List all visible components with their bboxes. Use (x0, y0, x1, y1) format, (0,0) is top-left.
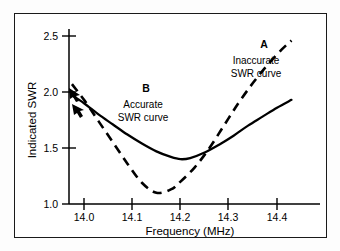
y-tick-label-1-5: 1.5 (43, 142, 58, 154)
figure: 2.5 2.0 1.5 1.0 14.0 14.1 14.2 14.3 14.4… (0, 0, 340, 251)
x-tick-label-14-2: 14.2 (170, 211, 191, 223)
x-axis-title: Frequency (MHz) (146, 225, 235, 237)
annotation-a-line-1: Inaccurate (233, 55, 280, 66)
annotation-b: B Accurate SWR curve (118, 82, 169, 123)
x-tick-label-14-0: 14.0 (74, 211, 95, 223)
y-tick-label-2-5: 2.5 (43, 30, 58, 42)
annotation-a-line-2: SWR curve (231, 68, 282, 79)
annotation-b-line-1: Accurate (123, 99, 163, 110)
x-tick-label-14-4: 14.4 (267, 211, 288, 223)
y-axis-title: Indicated SWR (26, 82, 38, 159)
annotation-a: A Inaccurate SWR curve (231, 38, 282, 79)
annotation-b-letter: B (142, 82, 150, 94)
x-tick-label-14-3: 14.3 (218, 211, 239, 223)
series-line-accurate-swr (72, 95, 292, 159)
x-tick-label-14-1: 14.1 (122, 211, 143, 223)
y-tick-label-2-0: 2.0 (43, 86, 58, 98)
y-tick-label-1-0: 1.0 (43, 198, 58, 210)
annotation-a-letter: A (260, 38, 268, 50)
chart-canvas: 2.5 2.0 1.5 1.0 14.0 14.1 14.2 14.3 14.4… (0, 0, 340, 251)
annotation-b-line-2: SWR curve (118, 112, 169, 123)
